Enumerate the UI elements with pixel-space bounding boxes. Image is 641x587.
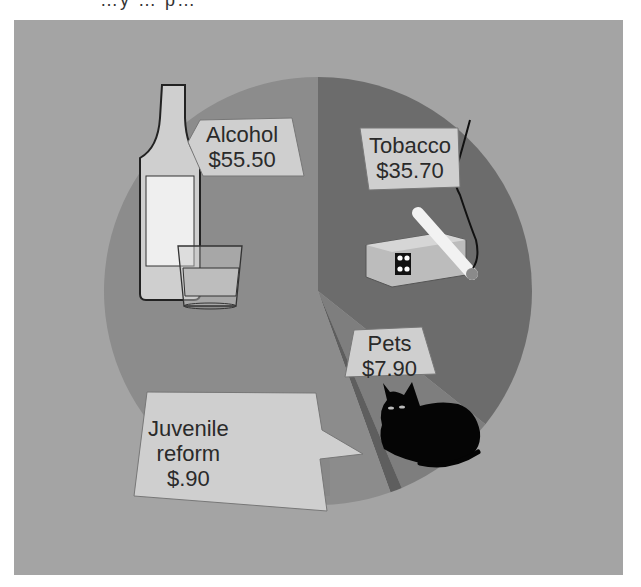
alcohol-value: $55.50 <box>206 147 278 172</box>
juvenile-value: $.90 <box>148 466 229 491</box>
tobacco-name: Tobacco <box>369 133 451 158</box>
tobacco-value: $35.70 <box>369 158 451 183</box>
pets-label: Pets $7.90 <box>362 331 417 381</box>
pets-value: $7.90 <box>362 356 417 381</box>
pets-name: Pets <box>362 331 417 356</box>
juvenile-line1: Juvenile <box>148 416 229 441</box>
alcohol-name: Alcohol <box>206 122 278 147</box>
juvenile-label: Juvenile reform $.90 <box>148 416 229 491</box>
alcohol-label: Alcohol $55.50 <box>206 122 278 172</box>
pie-chart <box>0 0 641 587</box>
tobacco-label: Tobacco $35.70 <box>369 133 451 183</box>
juvenile-line2: reform <box>148 441 229 466</box>
